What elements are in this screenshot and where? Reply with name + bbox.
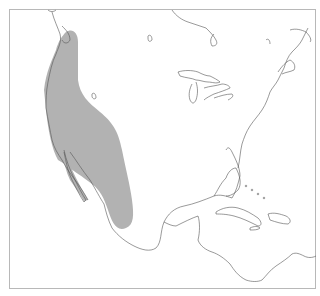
- species-range-area: [44, 30, 133, 228]
- range-map: [0, 0, 320, 296]
- great-lakes: [178, 71, 220, 83]
